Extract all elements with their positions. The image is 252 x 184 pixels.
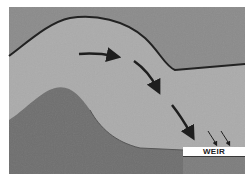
weir-flow-diagram	[0, 0, 252, 184]
weir-label: WEIR	[183, 147, 245, 156]
